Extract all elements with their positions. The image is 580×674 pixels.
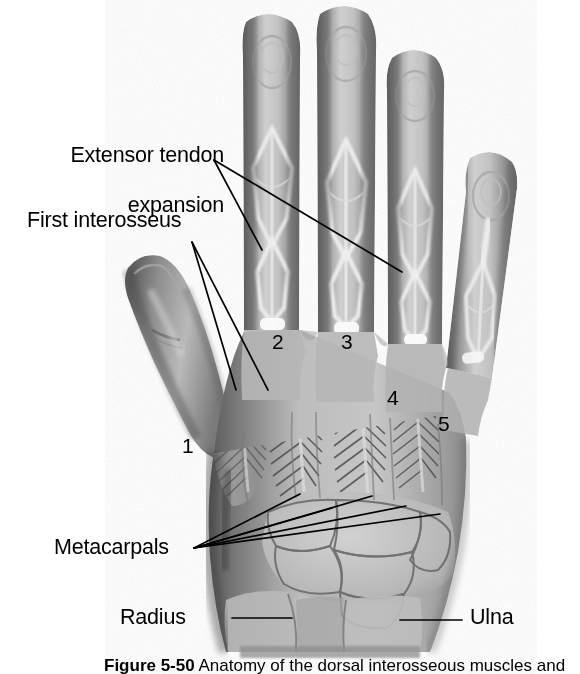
hand-dorsum: [209, 330, 492, 652]
figure-canvas: Extensor tendon expansion First inteross…: [0, 0, 580, 674]
label-first-interosseus: First interosseus: [27, 208, 181, 233]
index-finger: [242, 0, 302, 340]
label-extensor-tendon-expansion-line1: Extensor tendon: [70, 143, 224, 167]
label-metacarpals: Metacarpals: [54, 535, 169, 560]
figure-caption-text: Anatomy of the dorsal interosseous muscl…: [199, 656, 566, 674]
thumb: [125, 255, 232, 458]
figure-caption-number: Figure 5-50: [104, 656, 195, 674]
marker-2: 2: [272, 331, 284, 352]
label-radius: Radius: [120, 605, 186, 630]
ring-finger: [387, 40, 445, 350]
marker-3: 3: [341, 331, 353, 352]
figure-caption: Figure 5-50 Anatomy of the dorsal intero…: [0, 656, 580, 674]
marker-4: 4: [387, 387, 399, 408]
label-ulna: Ulna: [470, 605, 513, 630]
little-finger: [446, 150, 517, 378]
hand-anatomy-illustration: [0, 0, 580, 674]
marker-5: 5: [438, 413, 450, 434]
forearm-bones: [224, 591, 422, 652]
middle-finger: [316, 0, 376, 340]
marker-1: 1: [182, 435, 194, 456]
